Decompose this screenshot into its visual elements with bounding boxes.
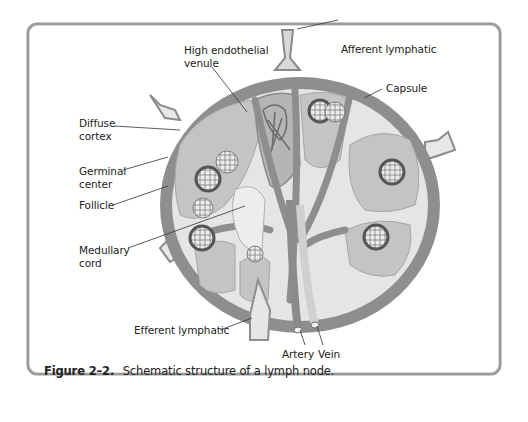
label-diffuse-cortex: Diffuse cortex [79, 117, 115, 142]
label-capsule: Capsule [386, 82, 427, 95]
label-high-endothelial-venule: High endothelial venule [184, 44, 269, 69]
label-follicle: Follicle [79, 199, 114, 212]
label-efferent-lymphatic: Efferent lymphatic [134, 324, 229, 337]
label-germinal-center: Germinal center [79, 165, 126, 190]
figure-caption: Figure 2–2. Schematic structure of a lym… [44, 364, 334, 378]
label-artery: Artery [282, 348, 314, 361]
label-medullary-cord: Medullary cord [79, 244, 130, 269]
caption-text: Schematic structure of a lymph node. [123, 364, 335, 378]
label-afferent-lymphatic: Afferent lymphatic [341, 43, 436, 56]
caption-number: Figure 2–2. [44, 364, 114, 378]
label-vein: Vein [318, 348, 340, 361]
